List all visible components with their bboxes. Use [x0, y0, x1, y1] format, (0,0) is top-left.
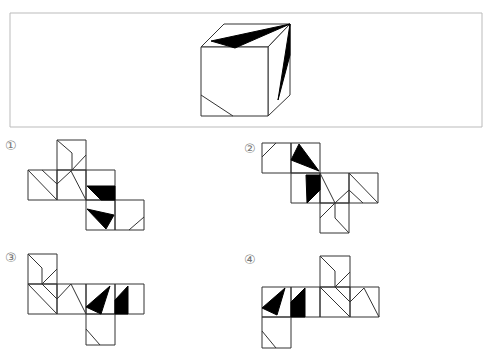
puzzle-figure: ① ② ③ ④: [0, 0, 490, 359]
option-3-black-triangle-b: [115, 286, 128, 314]
option-4-black-triangle-a: [262, 288, 285, 315]
option-4-black-triangle-b: [291, 288, 305, 317]
option-2-label: ②: [244, 142, 256, 155]
option-1-net: [28, 140, 144, 230]
option-1-black-triangle-b: [87, 209, 114, 229]
option-3-net: [28, 254, 144, 345]
option-2-net: [262, 143, 378, 233]
option-3-black-triangle-a: [86, 286, 110, 314]
option-4-label: ④: [244, 253, 256, 266]
cube-figure: [201, 24, 290, 116]
option-4-net: [262, 256, 379, 348]
option-2-black-triangle-a: [291, 144, 319, 171]
option-1-black-triangle-a: [87, 186, 115, 200]
puzzle-svg: [0, 0, 490, 359]
option-1-label: ①: [5, 139, 17, 152]
option-3-label: ③: [5, 251, 17, 264]
option-2-black-triangle-b: [306, 175, 320, 203]
